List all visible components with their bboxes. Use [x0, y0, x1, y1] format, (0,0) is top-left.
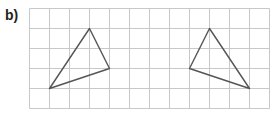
square-grid [30, 9, 270, 109]
right-triangle [190, 29, 250, 89]
left-triangle [50, 29, 110, 89]
grid-diagram [0, 0, 279, 113]
